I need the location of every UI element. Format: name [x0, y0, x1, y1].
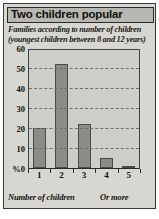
y-axis-tick-0: %0	[12, 165, 25, 174]
bar-3	[78, 124, 91, 168]
x-axis-title: Number of children	[8, 193, 75, 202]
plot-area	[28, 49, 140, 169]
gridline-50	[29, 68, 139, 69]
gridline-30	[29, 108, 139, 109]
x-axis-tick-2: 2	[59, 171, 64, 180]
subtitle-line-1: Families according to number of children	[8, 25, 155, 35]
page-title: Two children popular	[8, 9, 122, 21]
y-axis-tick-20: 20	[17, 125, 26, 134]
x-axis-note: Or more	[100, 193, 128, 202]
x-axis-tick-3: 3	[82, 171, 87, 180]
gridline-10	[29, 148, 139, 149]
y-axis-tick-40: 40	[17, 85, 26, 94]
x-axis-tick-4: 4	[104, 171, 109, 180]
gridline-40	[29, 88, 139, 89]
x-axis-tick-5: 5	[127, 171, 132, 180]
panel-title-bar: Two children popular	[7, 7, 154, 23]
bar-chart: %0102030405060 12345	[8, 47, 156, 178]
x-tickmark-5	[140, 169, 141, 173]
y-axis-labels: %0102030405060	[8, 47, 27, 171]
y-axis-tick-60: 60	[17, 45, 26, 54]
panel-subtitle: Families according to number of children…	[8, 25, 155, 45]
x-axis-labels: 12345	[28, 171, 140, 183]
bar-5	[122, 166, 135, 168]
screenshot-root: Two children popular Families according …	[0, 0, 159, 219]
chart-footer: Number of children Or more	[8, 193, 156, 207]
y-axis-tick-10: 10	[17, 145, 26, 154]
subtitle-line-2: (youngest children between 8 and 12 year…	[8, 35, 155, 45]
gridline-20	[29, 128, 139, 129]
y-axis-tick-50: 50	[17, 65, 26, 74]
bar-2	[55, 64, 68, 168]
infographic-panel: Two children popular Families according …	[3, 3, 156, 209]
x-axis-tick-1: 1	[37, 171, 42, 180]
y-axis-tick-30: 30	[17, 105, 26, 114]
bar-4	[100, 158, 113, 168]
